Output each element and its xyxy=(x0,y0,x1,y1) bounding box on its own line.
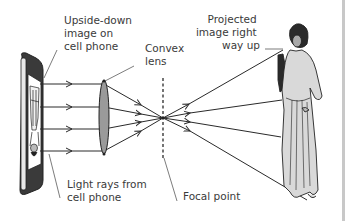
ray-c-diverge-b xyxy=(190,122,281,137)
ray-1-converge xyxy=(104,84,141,105)
ray-4-converge xyxy=(104,131,141,151)
phone-image-label: Upside-down image on cell phone xyxy=(64,14,135,52)
ray-b-diverge-b xyxy=(190,100,282,113)
cell-phone xyxy=(20,53,43,195)
ray-a-diverge-b xyxy=(189,50,283,104)
focal-label-leader xyxy=(164,158,177,201)
projected-figure xyxy=(278,24,322,198)
rays-label-leader xyxy=(49,154,60,198)
focal-point-label: Focal point xyxy=(183,190,240,202)
lens-label: Convex lens xyxy=(145,42,187,67)
lens-bottom-dot xyxy=(103,153,106,156)
projected-image-label: Projected image right way up xyxy=(196,13,260,51)
convex-lens xyxy=(99,80,109,154)
ray-3-converge xyxy=(104,122,141,129)
lens-label-leader xyxy=(105,66,134,81)
light-rays-label: Light rays from cell phone xyxy=(67,178,150,203)
lens-diagram: Upside-down image on cell phone Convex l… xyxy=(0,0,345,221)
focal-point-dot xyxy=(162,117,165,120)
phone-label-leader xyxy=(44,50,57,78)
ray-2-converge xyxy=(104,107,141,114)
